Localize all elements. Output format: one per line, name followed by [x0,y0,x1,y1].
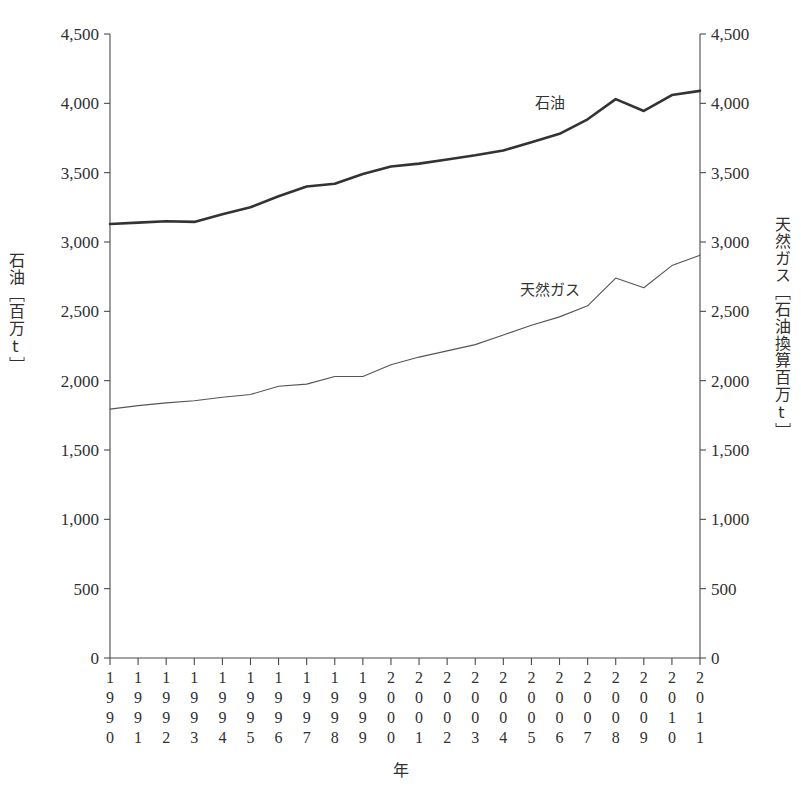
year-digit: 2 [689,668,711,688]
series-label-gas: 天然ガス [520,281,580,299]
year-digit: 0 [520,688,542,708]
y-axis-left-title: 石油［百万t］ [6,252,23,374]
year-digit: 2 [605,668,627,688]
y-tick-label-left: 1,500 [61,441,99,460]
year-digit: 9 [211,688,233,708]
year-digit: 0 [99,728,121,748]
year-digit: 2 [661,668,683,688]
y-tick-label-left: 500 [74,580,100,599]
year-digit: 0 [380,708,402,728]
year-digit: 5 [520,728,542,748]
year-digit: 0 [689,688,711,708]
x-axis-year-label: 2004 [492,668,514,748]
year-digit: 9 [633,728,655,748]
x-axis-year-label: 2006 [549,668,571,748]
year-digit: 0 [380,688,402,708]
year-digit: 9 [211,708,233,728]
year-digit: 0 [464,688,486,708]
y-tick-label-left: 4,500 [61,25,99,44]
year-digit: 2 [549,668,571,688]
year-digit: 0 [408,688,430,708]
year-digit: 0 [605,688,627,708]
year-digit: 0 [661,728,683,748]
year-digit: 1 [324,668,346,688]
y-tick-label-right: 2,500 [711,302,749,321]
year-digit: 3 [183,728,205,748]
year-digit: 2 [155,728,177,748]
year-digit: 6 [549,728,571,748]
year-digit: 1 [352,668,374,688]
x-axis-year-label: 2001 [408,668,430,748]
year-digit: 1 [127,668,149,688]
x-axis-year-label: 1997 [296,668,318,748]
year-digit: 1 [99,668,121,688]
year-digit: 2 [436,668,458,688]
year-digit: 0 [492,688,514,708]
year-digit: 9 [155,708,177,728]
year-digit: 0 [464,708,486,728]
x-axis-year-label: 2008 [605,668,627,748]
year-digit: 9 [99,708,121,728]
y-tick-label-right: 0 [711,649,720,668]
year-digit: 5 [239,728,261,748]
year-digit: 2 [492,668,514,688]
x-axis-year-label: 2002 [436,668,458,748]
year-digit: 2 [633,668,655,688]
y-tick-label-right: 3,500 [711,164,749,183]
year-digit: 9 [352,688,374,708]
y-tick-label-right: 3,000 [711,233,749,252]
year-digit: 8 [605,728,627,748]
year-digit: 9 [352,728,374,748]
year-digit: 1 [661,708,683,728]
x-axis-year-labels: 1990199119921993199419951996199719981999… [0,668,801,754]
series-label-oil: 石油 [535,94,565,112]
x-axis-year-label: 1990 [99,668,121,748]
x-axis-year-label: 1998 [324,668,346,748]
year-digit: 0 [633,708,655,728]
year-digit: 9 [127,708,149,728]
y-tick-label-right: 1,500 [711,441,749,460]
y-tick-label-right: 2,000 [711,372,749,391]
y-tick-label-left: 2,000 [61,372,99,391]
x-axis-year-label: 1999 [352,668,374,748]
x-axis-year-label: 2009 [633,668,655,748]
year-digit: 8 [324,728,346,748]
x-axis-year-label: 2011 [689,668,711,748]
year-digit: 7 [577,728,599,748]
x-axis-year-label: 1994 [211,668,233,748]
series-line-gas [110,255,700,409]
year-digit: 1 [239,668,261,688]
year-digit: 9 [324,708,346,728]
x-axis-year-label: 1996 [268,668,290,748]
year-digit: 0 [492,708,514,728]
year-digit: 2 [380,668,402,688]
year-digit: 4 [211,728,233,748]
year-digit: 9 [268,708,290,728]
x-axis-year-label: 1995 [239,668,261,748]
chart-container: 005005001,0001,0001,5001,5002,0002,0002,… [0,0,801,786]
y-axis-right-title: 天然ガス［石油換算百万t］ [772,216,789,440]
year-digit: 2 [464,668,486,688]
year-digit: 2 [577,668,599,688]
year-digit: 0 [577,688,599,708]
year-digit: 9 [99,688,121,708]
x-axis-year-label: 2000 [380,668,402,748]
x-axis-year-label: 2005 [520,668,542,748]
year-digit: 9 [183,688,205,708]
year-digit: 9 [155,688,177,708]
year-digit: 1 [183,668,205,688]
year-digit: 9 [296,688,318,708]
series-line-oil [110,91,700,224]
year-digit: 9 [239,708,261,728]
year-digit: 9 [127,688,149,708]
x-axis-title: 年 [0,757,801,781]
year-digit: 0 [605,708,627,728]
y-tick-label-left: 4,000 [61,94,99,113]
year-digit: 1 [689,708,711,728]
x-axis-year-label: 1992 [155,668,177,748]
y-tick-label-right: 1,000 [711,510,749,529]
year-digit: 0 [661,688,683,708]
year-digit: 0 [520,708,542,728]
year-digit: 1 [211,668,233,688]
year-digit: 6 [268,728,290,748]
